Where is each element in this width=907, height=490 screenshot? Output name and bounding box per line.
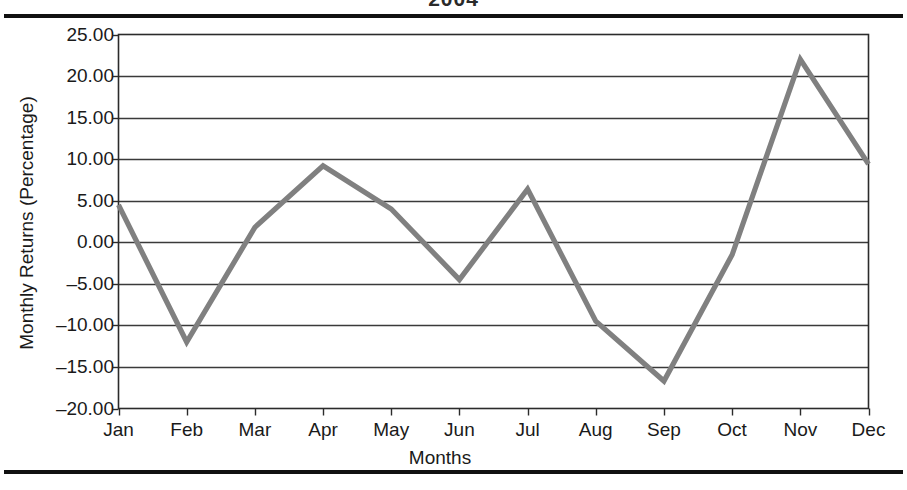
x-tick-label: Jun <box>424 418 494 442</box>
x-tick-label: Jul <box>493 418 563 442</box>
x-axis-tick-labels: JanFebMarAprMayJunJulAugSepOctNovDec <box>0 418 907 444</box>
x-tick-label: May <box>356 418 426 442</box>
x-tick-label: Dec <box>834 418 904 442</box>
x-tick-label: Nov <box>765 418 835 442</box>
x-tick-label: Oct <box>697 418 767 442</box>
plot-frame <box>119 35 869 409</box>
axis-ticks <box>113 36 870 416</box>
x-tick-label: Apr <box>288 418 358 442</box>
x-tick-label: Mar <box>220 418 290 442</box>
x-tick-label: Jan <box>84 418 154 442</box>
x-axis-title: Months <box>0 447 880 469</box>
x-tick-label: Sep <box>629 418 699 442</box>
x-tick-label: Feb <box>152 418 222 442</box>
data-series-line <box>119 59 869 381</box>
plot-area <box>0 0 907 490</box>
gridlines <box>119 77 869 368</box>
x-tick-label: Aug <box>561 418 631 442</box>
chart-figure: 2004 Monthly Returns (Percentage) 25.002… <box>0 0 907 490</box>
